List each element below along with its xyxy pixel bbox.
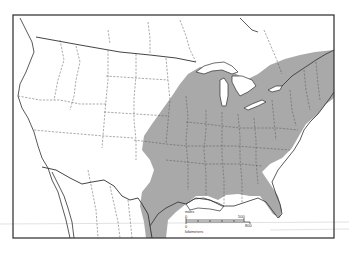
scale-miles-start: 0 bbox=[185, 214, 188, 219]
scan-artifact-line bbox=[270, 229, 349, 230]
scale-km-end: 800 bbox=[245, 223, 252, 228]
baja-coastline bbox=[52, 172, 74, 238]
scale-bar: miles 0 500 0 800 kilometers bbox=[185, 209, 252, 234]
lake-michigan bbox=[220, 78, 228, 106]
scale-km-label: kilometers bbox=[185, 229, 203, 234]
range-map: miles 0 500 0 800 kilometers bbox=[0, 0, 349, 255]
hudson-bay-coast bbox=[240, 18, 258, 32]
scan-artifact-line bbox=[0, 222, 349, 224]
